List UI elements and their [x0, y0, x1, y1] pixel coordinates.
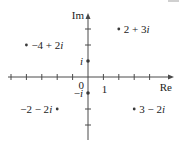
point-label: 3 − 2i: [139, 103, 165, 115]
point-label: 2 + 3i: [124, 23, 150, 35]
point-label: −2 − 2i: [20, 103, 52, 115]
complex-plane-svg: 2 + 3i−4 + 2i−2 − 2i3 − 2ii−i Im Re 0 1: [0, 0, 179, 150]
complex-point: −4 + 2i: [25, 39, 63, 51]
imag-axis-label: Im: [72, 9, 85, 21]
point-label: −4 + 2i: [31, 39, 63, 51]
unit-real-label: 1: [102, 83, 108, 95]
real-axis-arrow-icon: [168, 75, 174, 80]
corner-mark: [168, 0, 179, 2]
point-marker-icon: [86, 59, 90, 63]
complex-point: 3 − 2i: [133, 103, 165, 115]
point-marker-icon: [86, 91, 90, 95]
point-label: i: [80, 55, 83, 67]
point-marker-icon: [117, 28, 120, 31]
complex-point: −2 − 2i: [20, 103, 58, 115]
complex-plane-diagram: 2 + 3i−4 + 2i−2 − 2i3 − 2ii−i Im Re 0 1: [0, 0, 179, 150]
origin-label: 0: [79, 79, 85, 91]
point-marker-icon: [25, 44, 28, 47]
axis-labels: Im Re 0 1: [72, 9, 172, 95]
real-axis-label: Re: [160, 81, 172, 93]
plotted-points: 2 + 3i−4 + 2i−2 − 2i3 − 2ii−i: [20, 23, 165, 115]
point-marker-icon: [56, 108, 59, 111]
complex-point: 2 + 3i: [117, 23, 149, 35]
point-marker-icon: [133, 108, 136, 111]
imag-axis-arrow-icon: [86, 13, 91, 19]
